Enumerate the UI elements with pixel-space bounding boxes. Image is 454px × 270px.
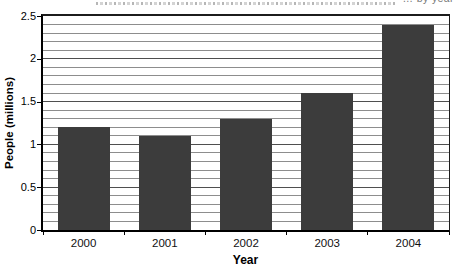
- bar-2002: [220, 119, 272, 230]
- y-axis-title: People (millions): [3, 63, 17, 183]
- y-tick-mark: [37, 144, 41, 145]
- chart-screenshot: … by year People (millions) Year 00.511.…: [0, 0, 454, 270]
- x-tick-mark: [124, 232, 125, 235]
- x-tick-mark: [449, 232, 450, 235]
- y-tick-label: 0: [0, 224, 36, 237]
- bar-2001: [139, 136, 191, 230]
- y-tick-label: 0.5: [0, 181, 36, 194]
- y-tick-mark: [37, 16, 41, 17]
- y-tick-mark: [37, 230, 41, 231]
- x-category-label: 2003: [292, 237, 362, 250]
- y-tick-label: 1: [0, 138, 36, 151]
- y-tick-label: 2.5: [0, 10, 36, 23]
- x-category-label: 2002: [211, 237, 281, 250]
- x-tick-mark: [367, 232, 368, 235]
- x-category-label: 2001: [130, 237, 200, 250]
- x-category-label: 2004: [373, 237, 443, 250]
- bar-2004: [382, 25, 434, 230]
- x-category-label: 2000: [49, 237, 119, 250]
- y-tick-mark: [37, 102, 41, 103]
- bar-2000: [58, 127, 110, 230]
- x-axis-title: Year: [41, 253, 450, 267]
- y-tick-label: 1.5: [0, 95, 36, 108]
- x-tick-mark: [43, 232, 44, 235]
- bar-2003: [301, 93, 353, 230]
- y-tick-mark: [37, 59, 41, 60]
- clipped-title-remnant: [96, 2, 396, 5]
- y-tick-mark: [37, 187, 41, 188]
- x-tick-mark: [205, 232, 206, 235]
- y-tick-label: 2: [0, 52, 36, 65]
- plot-area: [41, 14, 450, 232]
- x-tick-mark: [286, 232, 287, 235]
